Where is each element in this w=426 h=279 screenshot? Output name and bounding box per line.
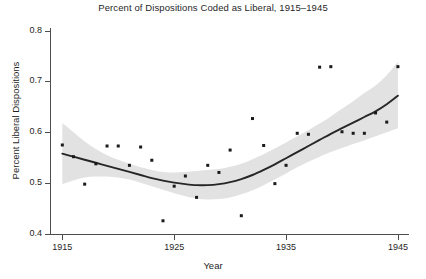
data-point	[117, 145, 120, 148]
data-point	[173, 185, 176, 188]
x-tick-label: 1915	[40, 242, 84, 252]
data-point	[229, 149, 232, 152]
y-axis-title: Percent Liberal Dispositions	[10, 18, 21, 224]
data-point	[161, 219, 164, 222]
data-point	[217, 171, 220, 174]
data-point	[273, 182, 276, 185]
data-point	[106, 145, 109, 148]
data-point	[318, 66, 321, 69]
confidence-band	[62, 62, 398, 199]
data-point	[184, 175, 187, 178]
y-tick-label: 0.4	[2, 229, 42, 238]
data-point	[396, 65, 399, 68]
data-point	[61, 143, 64, 146]
data-point	[329, 65, 332, 68]
plot-svg	[50, 28, 408, 234]
chart-title: Percent of Dispositions Coded as Liberal…	[0, 2, 426, 13]
data-point	[240, 214, 243, 217]
data-point	[352, 132, 355, 135]
y-tick-label: 0.5	[2, 178, 42, 187]
chart-container: Percent of Dispositions Coded as Liberal…	[0, 0, 426, 279]
data-point	[285, 164, 288, 167]
x-tick-mark	[174, 235, 175, 240]
x-tick-label: 1925	[152, 242, 196, 252]
y-tick-mark	[45, 234, 50, 235]
data-point	[150, 159, 153, 162]
data-point	[206, 164, 209, 167]
data-point	[251, 117, 254, 120]
x-tick-label: 1935	[264, 242, 308, 252]
data-point	[139, 146, 142, 149]
y-tick-label: 0.6	[2, 127, 42, 136]
x-tick-mark	[398, 235, 399, 240]
data-point	[374, 111, 377, 114]
data-point	[94, 162, 97, 165]
x-tick-label: 1945	[376, 242, 420, 252]
y-axis-tick-labels: 0.40.50.60.70.8	[0, 0, 42, 279]
y-tick-label: 0.8	[2, 26, 42, 35]
data-point	[296, 132, 299, 135]
y-tick-label: 0.7	[2, 76, 42, 85]
x-tick-mark	[62, 235, 63, 240]
data-point	[307, 133, 310, 136]
data-point	[363, 132, 366, 135]
x-axis-line	[50, 234, 409, 235]
data-point	[340, 130, 343, 133]
x-axis-title: Year	[0, 260, 426, 271]
plot-area	[50, 28, 408, 234]
x-tick-mark	[286, 235, 287, 240]
data-point	[262, 144, 265, 147]
data-point	[385, 121, 388, 124]
data-point	[83, 183, 86, 186]
data-point	[195, 196, 198, 199]
data-point	[72, 155, 75, 158]
data-point	[128, 164, 131, 167]
